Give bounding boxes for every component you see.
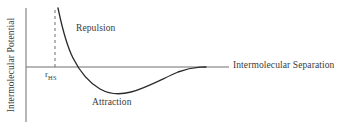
potential-energy-curve — [58, 8, 206, 94]
x-axis-label: Intermolecular Separation — [233, 61, 334, 71]
y-axis-label-container: Intermolecular Potential — [2, 0, 20, 130]
attraction-annotation: Attraction — [92, 98, 132, 108]
y-axis-label: Intermolecular Potential — [6, 18, 16, 112]
hard-sphere-radius-annotation: rHS — [45, 70, 57, 81]
rhs-subscript: HS — [48, 74, 57, 81]
intermolecular-potential-figure: Intermolecular Potential Intermolecular … — [0, 0, 341, 130]
repulsion-annotation: Repulsion — [76, 24, 115, 34]
